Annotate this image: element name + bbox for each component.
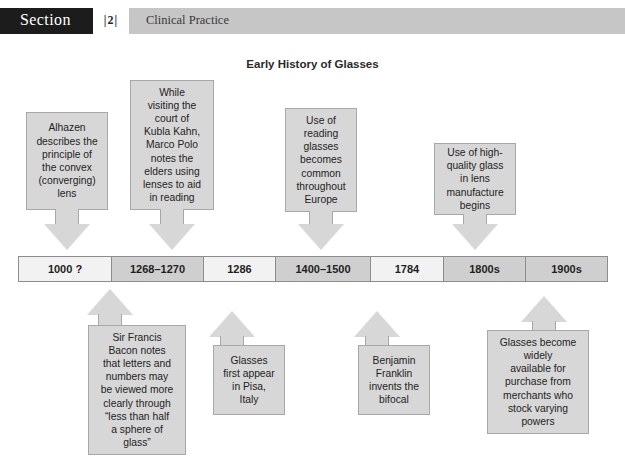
section-badge: Section	[0, 8, 93, 34]
timeline-cell-2[interactable]: 1268–1270	[112, 257, 204, 281]
section-number: |2|	[104, 13, 118, 28]
note-text: Benjamin Franklin invents the bifocal	[363, 354, 425, 407]
section-title-bar: Clinical Practice	[129, 8, 625, 34]
timeline-cell-1[interactable]: 1000 ?	[19, 257, 112, 281]
note-box-below-2: Glasses first appear in Pisa, Italy	[213, 345, 285, 415]
note-box-below-3: Benjamin Franklin invents the bifocal	[358, 345, 430, 415]
timeline-cell-7[interactable]: 1900s	[526, 257, 607, 281]
timeline-cell-4[interactable]: 1400–1500	[276, 257, 371, 281]
page-title: Early History of Glasses	[0, 58, 625, 70]
section-number-wrap: |2|	[93, 8, 129, 34]
section-label: Section	[20, 11, 71, 29]
section-title: Clinical Practice	[146, 13, 229, 28]
note-text: Alhazen describes the principle of the c…	[31, 121, 103, 200]
page-header: Section |2| Clinical Practice	[0, 8, 625, 34]
note-text: Sir Francis Bacon notes that letters and…	[93, 331, 181, 450]
note-box-above-4: Use of high- quality glass in lens manuf…	[434, 143, 516, 215]
note-text: Use of high- quality glass in lens manuf…	[439, 146, 511, 212]
timeline-cell-3[interactable]: 1286	[204, 257, 276, 281]
note-text: While visiting the court of Kubla Kahn, …	[135, 86, 209, 205]
note-box-above-3: Use of reading glasses becomes common th…	[285, 108, 357, 212]
note-box-above-2: While visiting the court of Kubla Kahn, …	[130, 80, 214, 210]
note-box-below-4: Glasses become widely available for purc…	[487, 330, 589, 434]
note-box-below-1: Sir Francis Bacon notes that letters and…	[88, 325, 186, 455]
note-box-above-1: Alhazen describes the principle of the c…	[26, 112, 108, 210]
timeline-cell-5[interactable]: 1784	[371, 257, 444, 281]
note-text: Use of reading glasses becomes common th…	[290, 114, 352, 206]
note-text: Glasses first appear in Pisa, Italy	[218, 354, 280, 407]
timeline-bar: 1000 ? 1268–1270 1286 1400–1500 1784 180…	[18, 256, 608, 282]
timeline-cell-6[interactable]: 1800s	[444, 257, 526, 281]
note-text: Glasses become widely available for purc…	[492, 336, 584, 428]
